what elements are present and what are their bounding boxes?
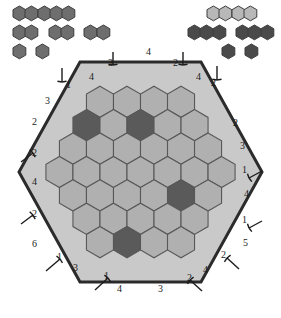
clue-arrow-icon: [21, 212, 35, 224]
clue-arrow-icon: [224, 255, 239, 269]
clue-arrow-icon: [21, 150, 35, 162]
clue-arrow-icon: [57, 68, 66, 82]
arrow-layer: [0, 0, 281, 318]
clue-arrow-icon: [247, 171, 262, 182]
clue-arrow-icon: [178, 52, 187, 65]
clue-arrow-icon: [95, 275, 111, 290]
puzzle-root: 432144232242623141513143224: [0, 0, 281, 318]
clue-arrow-icon: [247, 221, 262, 232]
clue-arrow-icon: [187, 277, 202, 291]
clue-arrow-icon: [108, 52, 117, 65]
clue-arrow-icon: [46, 256, 62, 271]
clue-arrow-icon: [212, 66, 221, 80]
